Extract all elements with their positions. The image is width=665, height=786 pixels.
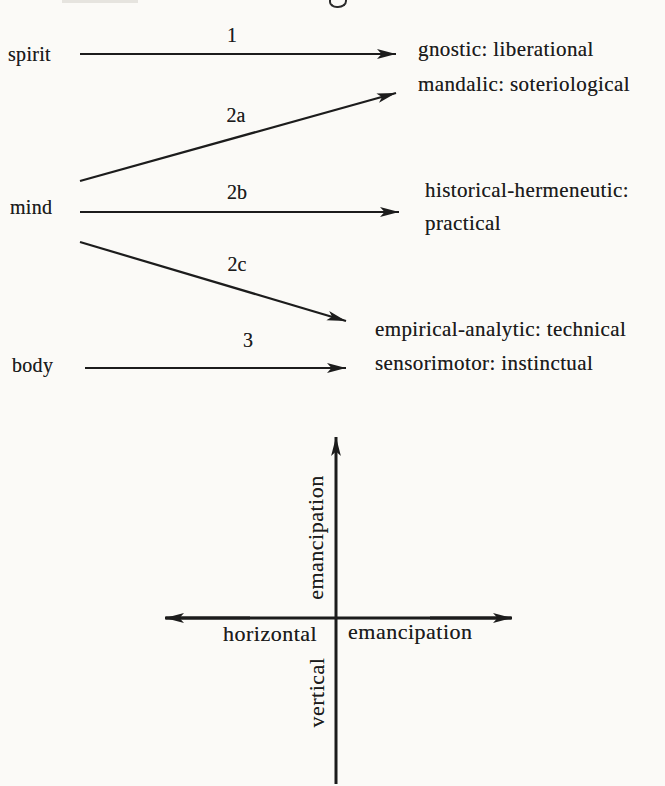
- target-empirical-label: empirical-analytic: technical: [375, 318, 626, 340]
- target-sensorimotor-label: sensorimotor: instinctual: [375, 352, 593, 374]
- target-historical-label-line1: historical-hermeneutic:: [425, 179, 629, 201]
- arrow-label-3: 3: [238, 330, 258, 351]
- diagram-lines-layer: [0, 0, 665, 786]
- arrow-label-1: 1: [222, 25, 242, 46]
- scanned-figure-page: spirit mind body 1 2a 2b 2c 3 gnostic: l…: [0, 0, 665, 786]
- arrow-label-2c: 2c: [221, 254, 253, 275]
- arrow-label-2a: 2a: [220, 105, 252, 126]
- vertical-axis-lower-word: vertical: [305, 650, 328, 736]
- level-mind-label: mind: [10, 197, 52, 218]
- level-body-label: body: [12, 355, 53, 376]
- level-spirit-label: spirit: [8, 44, 51, 65]
- target-gnostic-label: gnostic: liberational: [418, 38, 594, 60]
- vertical-axis-upper-word: emancipation: [304, 468, 327, 608]
- horizontal-axis-left-word: horizontal: [223, 622, 317, 645]
- target-mandalic-label: mandalic: soteriological: [418, 73, 630, 95]
- horizontal-axis-right-word: emancipation: [348, 620, 473, 643]
- target-historical-label-line2: practical: [425, 212, 501, 234]
- arrow-2c-mind-to-empirical: [80, 242, 346, 321]
- arrow-label-2b: 2b: [221, 182, 253, 203]
